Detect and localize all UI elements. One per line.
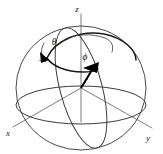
spherical-coordinates-figure: z x y θ ϕ r [0, 0, 163, 154]
y-axis-line [81, 88, 152, 128]
z-axis-label: z [74, 4, 79, 14]
axes-group [13, 14, 152, 128]
y-axis-label: y [145, 133, 150, 143]
x-axis-label: x [5, 128, 10, 138]
theta-label: θ [52, 37, 57, 47]
theta-angle-group [38, 43, 49, 63]
diagram-canvas: z x y θ ϕ r [0, 0, 163, 154]
phi-label: ϕ [83, 52, 88, 62]
